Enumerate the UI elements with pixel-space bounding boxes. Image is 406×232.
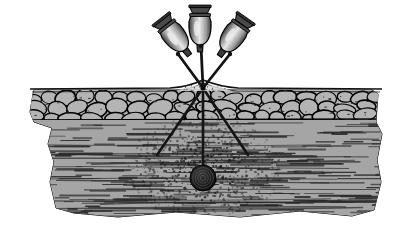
dispersion-particle [138, 196, 139, 197]
dispersion-particle [168, 181, 170, 183]
dispersion-particle [254, 156, 256, 158]
dispersion-particle [198, 147, 200, 149]
muscle-fiber [342, 143, 382, 145]
dispersion-particle [165, 170, 167, 172]
dispersion-particle [226, 147, 228, 149]
dispersion-particle [177, 198, 179, 200]
dispersion-particle [211, 124, 213, 126]
dispersion-particle [230, 192, 231, 193]
dispersion-particle [159, 160, 161, 162]
dispersion-particle [265, 167, 267, 169]
dispersion-particle [249, 195, 251, 197]
dispersion-particle [194, 193, 195, 194]
muscle-fiber [74, 170, 124, 172]
muscle-fiber [368, 123, 382, 124]
dispersion-particle [237, 186, 239, 188]
dispersion-particle [241, 182, 243, 184]
dispersion-particle [224, 170, 226, 172]
right-ampoule[interactable] [210, 11, 255, 62]
dispersion-particle [192, 216, 194, 218]
dispersion-particle [185, 197, 186, 198]
dispersion-particle [177, 208, 179, 210]
muscle-fiber [374, 166, 382, 167]
dispersion-particle [215, 159, 216, 160]
depot-sphere [190, 165, 216, 191]
dispersion-particle [146, 148, 148, 150]
dispersion-particle [157, 128, 159, 130]
muscle-fiber [313, 161, 361, 162]
needle-hub [199, 44, 203, 48]
dispersion-particle [233, 180, 234, 181]
dispersion-particle [188, 142, 190, 144]
dispersion-particle [254, 130, 256, 132]
dispersion-particle [277, 175, 279, 177]
fat-muscle-boundary [28, 119, 384, 120]
dispersion-particle [213, 162, 215, 164]
dispersion-particle [237, 206, 239, 208]
dispersion-particle [174, 201, 176, 203]
dispersion-particle [219, 120, 221, 122]
dispersion-particle [251, 189, 252, 190]
dispersion-particle [267, 179, 269, 181]
dispersion-particle [236, 122, 238, 124]
dispersion-particle [150, 166, 151, 167]
dispersion-particle [261, 195, 263, 197]
dispersion-particle [185, 218, 187, 220]
dispersion-particle [258, 158, 259, 159]
dispersion-particle [232, 212, 234, 214]
muscle-fiber [372, 140, 382, 141]
dispersion-particle [263, 137, 264, 138]
dispersion-particle [228, 189, 229, 190]
dispersion-particle [216, 160, 218, 162]
dispersion-particle [242, 187, 244, 189]
dispersion-particle [189, 191, 191, 193]
dispersion-particle [139, 155, 141, 157]
injection-illustration [0, 0, 406, 232]
dispersion-particle [252, 157, 253, 158]
dispersion-particle [179, 190, 181, 192]
dispersion-particle [258, 168, 260, 170]
dispersion-particle [138, 167, 139, 168]
dispersion-particle [229, 213, 230, 214]
dispersion-particle [152, 149, 153, 150]
dispersion-particle [237, 157, 239, 159]
dispersion-particle [254, 177, 255, 178]
dispersion-particle [223, 175, 224, 176]
dispersion-particle [162, 140, 164, 142]
dispersion-particle [170, 180, 171, 181]
dispersion-particle [244, 140, 245, 141]
dispersion-particle [185, 158, 187, 160]
dispersion-particle [208, 138, 209, 139]
muscle-fiber [42, 184, 57, 185]
muscle-fiber [230, 123, 255, 125]
muscle-fiber [323, 132, 366, 134]
dispersion-particle [246, 201, 248, 203]
dispersion-particle [176, 175, 178, 177]
dispersion-particle [237, 175, 238, 176]
dispersion-particle [232, 187, 233, 188]
dispersion-particle [251, 196, 253, 198]
dispersion-particle [196, 144, 198, 146]
dispersion-particle [217, 171, 219, 173]
dispersion-particle [229, 136, 231, 138]
dispersion-particle [253, 187, 255, 189]
dispersion-particle [231, 140, 233, 142]
dispersion-particle [214, 192, 216, 194]
dispersion-particle [226, 119, 227, 120]
muscle-fiber [67, 128, 103, 130]
dispersion-particle [214, 140, 215, 141]
dispersion-particle [176, 160, 178, 162]
muscle-fiber [229, 196, 260, 198]
dispersion-particle [217, 131, 218, 132]
dispersion-particle [227, 181, 228, 182]
muscle-fiber [366, 131, 381, 132]
dispersion-particle [236, 128, 237, 129]
dispersion-particle [249, 170, 250, 171]
dispersion-particle [227, 143, 229, 145]
dispersion-particle [258, 166, 259, 167]
ampoule-cap-rim [189, 5, 211, 8]
dispersion-particle [195, 153, 197, 155]
muscle-fiber [37, 166, 82, 167]
dispersion-particle [220, 182, 222, 184]
dispersion-particle [206, 163, 207, 164]
